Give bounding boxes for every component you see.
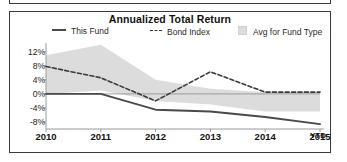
ytd-annotation: YTD [310,131,326,140]
x-axis-tick-labels: 201020112012201320142015 [10,131,332,147]
legend-label-avg-for-fund-type: Avg for Fund Type [253,27,322,37]
x-axis-tick: 2013 [200,131,221,142]
y-axis-tick: 0% [33,89,45,99]
legend-item-bond-index: Bond Index [150,26,210,37]
legend-item-avg-for-fund-type: Avg for Fund Type [238,26,322,37]
legend-item-this-fund: This Fund [52,25,109,36]
legend-label-this-fund: This Fund [71,26,109,36]
y-axis-tick: 12% [28,47,45,57]
solid-line-swatch-icon [52,29,66,31]
y-axis-tick: 4% [33,75,45,85]
y-axis-tick-labels: 12%8%4%0%-4%-8% [14,39,45,129]
y-axis-tick: -4% [30,103,45,113]
chart-title: Annualized Total Return [10,13,330,25]
x-axis-tick: 2011 [90,131,111,142]
y-axis-tick: 8% [33,61,45,71]
legend-label-bond-index: Bond Index [167,27,210,37]
plot-area: 12%8%4%0%-4%-8% 201020112012201320142015… [10,39,332,152]
panel-above-divider [9,0,331,4]
annualized-total-return-chart-panel: Annualized Total Return This Fund Bond I… [9,11,331,153]
dashed-line-swatch-icon [150,30,162,31]
y-axis-tick: -8% [30,117,45,127]
chart-legend: This Fund Bond Index Avg for Fund Type [10,25,330,39]
x-axis-tick: 2012 [145,131,166,142]
shaded-band-swatch-icon [238,26,247,35]
x-axis-tick: 2014 [255,131,276,142]
band-avg-for-fund-type [46,45,320,112]
x-axis-tick: 2010 [35,131,56,142]
